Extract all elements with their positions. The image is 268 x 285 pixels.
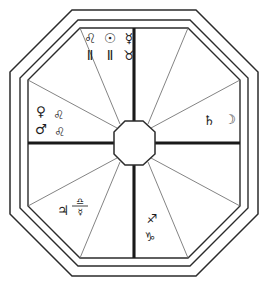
glyph-gemini-north-b: Ⅱ bbox=[107, 47, 114, 63]
glyph-gemini-north-a: Ⅱ bbox=[87, 47, 94, 63]
spoke-diagonal-ws bbox=[28, 158, 117, 206]
glyph-jupiter-southwest: ♃ bbox=[57, 202, 69, 218]
spoke-diagonal-se bbox=[148, 162, 188, 258]
glyph-leo-west-a: ♌ bbox=[54, 108, 65, 122]
glyph-venus-west: ♀ bbox=[36, 103, 46, 119]
diagram-canvas: ♌ ☉ ☿ Ⅱ Ⅱ ♉ ♀ ♌ ♂ ♌ ♄ ☽ ♃ ♎ ☿ ♐ ♑ bbox=[0, 0, 268, 285]
glyph-saturn-east: ♄ bbox=[203, 112, 215, 128]
glyph-taurus-north: ♉ bbox=[123, 47, 135, 63]
glyph-mercury-north: ☿ bbox=[125, 30, 133, 46]
glyph-mars-west: ♂ bbox=[35, 121, 47, 137]
glyph-sun-north: ☉ bbox=[104, 30, 116, 46]
glyph-libra-southwest-stack-top: ♎ bbox=[76, 196, 84, 206]
spoke-diagonal-ne bbox=[148, 28, 188, 124]
glyph-leo-west-b: ♌ bbox=[55, 125, 66, 139]
glyph-leo-north: ♌ bbox=[84, 30, 96, 46]
glyph-mercury-southwest-stack-bottom: ☿ bbox=[77, 207, 82, 217]
central-octagon-hub bbox=[114, 121, 155, 165]
octagon-chart-figure: ♌ ☉ ☿ Ⅱ Ⅱ ♉ ♀ ♌ ♂ ♌ ♄ ☽ ♃ ♎ ☿ ♐ ♑ bbox=[0, 0, 268, 285]
glyph-capricorn-south: ♑ bbox=[145, 230, 156, 244]
glyph-moon-east: ☽ bbox=[224, 111, 236, 127]
spoke-diagonal-sw bbox=[80, 162, 120, 258]
glyph-sagittarius-south: ♐ bbox=[147, 212, 158, 226]
spoke-diagonal-es bbox=[151, 158, 240, 206]
